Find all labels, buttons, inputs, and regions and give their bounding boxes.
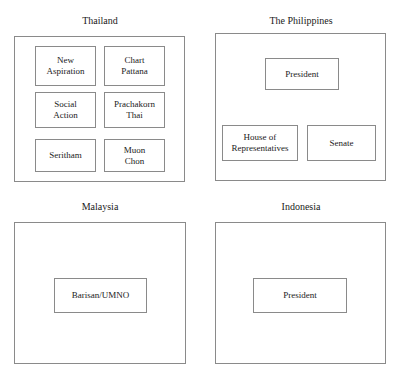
node-prachakorn-thai: Prachakorn Thai: [104, 92, 165, 128]
node-label-chart-pattana: Chart Pattana: [121, 55, 148, 77]
panel-philippines: The Philippines President House of Repre…: [201, 0, 401, 190]
node-indonesia-president: President: [253, 278, 347, 313]
node-label-senate: Senate: [330, 138, 354, 149]
panel-thailand: Thailand New Aspiration Chart Pattana So…: [0, 0, 200, 190]
node-house-of-representatives: House of Representatives: [222, 125, 298, 161]
node-label-new-aspiration: New Aspiration: [47, 55, 85, 77]
panel-title-indonesia: Indonesia: [201, 201, 401, 213]
node-label-social-action: Social Action: [53, 99, 78, 121]
panel-malaysia: Malaysia Barisan/UMNO: [0, 190, 200, 379]
node-philippines-president: President: [265, 58, 339, 90]
panel-title-malaysia: Malaysia: [0, 201, 200, 213]
node-label-barisan-umno: Barisan/UMNO: [72, 290, 130, 301]
node-seritham: Seritham: [35, 139, 96, 172]
node-senate: Senate: [307, 125, 376, 161]
node-label-prachakorn-thai: Prachakorn Thai: [114, 99, 155, 121]
node-label-seritham: Seritham: [49, 150, 82, 161]
panel-title-philippines: The Philippines: [201, 15, 401, 27]
node-label-indonesia-president: President: [283, 290, 317, 301]
node-social-action: Social Action: [35, 92, 96, 128]
node-label-philippines-president: President: [285, 69, 319, 80]
node-barisan-umno: Barisan/UMNO: [54, 278, 147, 313]
panel-indonesia: Indonesia President: [201, 190, 401, 379]
node-label-house-of-representatives: House of Representatives: [232, 132, 289, 154]
panel-title-thailand: Thailand: [0, 15, 200, 27]
node-muon-chon: Muon Chon: [104, 139, 165, 172]
node-label-muon-chon: Muon Chon: [124, 145, 146, 167]
node-new-aspiration: New Aspiration: [35, 46, 96, 86]
node-chart-pattana: Chart Pattana: [104, 46, 165, 86]
